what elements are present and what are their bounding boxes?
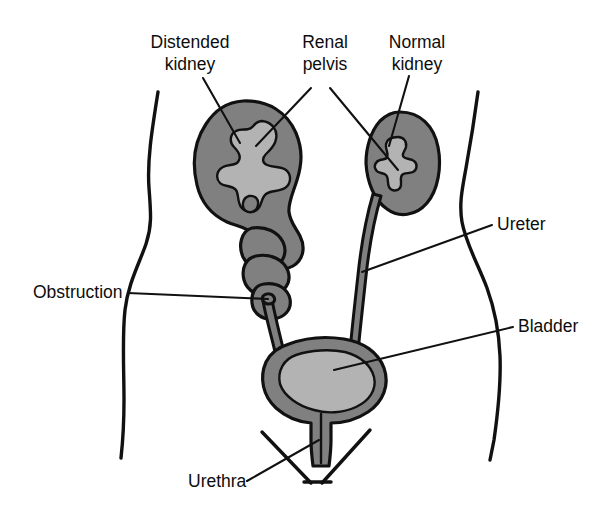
- torso-left-outline: [121, 92, 158, 458]
- leader-ureter: [362, 225, 492, 272]
- label-ureter: Ureter: [497, 214, 546, 234]
- label-urethra: Urethra: [188, 471, 247, 491]
- bladder-group: [263, 338, 387, 466]
- distended-kidney-medulla-notch: [243, 196, 258, 212]
- label-normal-kidney-line2: kidney: [392, 54, 443, 74]
- label-obstruction: Obstruction: [33, 282, 122, 302]
- label-distended-kidney-line1: Distended: [151, 32, 230, 52]
- label-distended-kidney-line2: kidney: [165, 54, 216, 74]
- label-bladder: Bladder: [518, 316, 578, 336]
- label-normal-kidney-line1: Normal: [389, 32, 445, 52]
- label-renal-pelvis-line1: Renal: [302, 32, 348, 52]
- leader-urethra: [247, 440, 319, 481]
- caption-strip: [0, 503, 602, 519]
- urinary-tract-diagram: Distended kidney Renal pelvis Normal kid…: [0, 0, 602, 519]
- label-renal-pelvis-line2: pelvis: [303, 54, 348, 74]
- distended-kidney-group: [194, 101, 303, 319]
- torso-right-outline: [461, 92, 500, 460]
- anatomy-figure: Distended kidney Renal pelvis Normal kid…: [0, 0, 602, 519]
- leader-obstruction: [128, 293, 268, 299]
